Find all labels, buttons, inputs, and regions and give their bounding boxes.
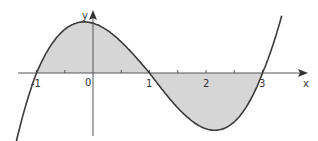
x-tick-label-neg1: -1 xyxy=(31,78,41,89)
origin-label: 0 xyxy=(85,77,91,88)
y-axis-label: y xyxy=(82,10,88,21)
x-tick-label-2: 2 xyxy=(203,78,209,89)
shaded-area xyxy=(37,22,263,130)
x-axis-label: x xyxy=(303,78,309,89)
graph-canvas: y x 0 -1 1 2 3 xyxy=(0,0,318,141)
x-tick-label-1: 1 xyxy=(146,78,152,89)
graph-figure: y x 0 -1 1 2 3 xyxy=(0,0,318,141)
x-tick-label-3: 3 xyxy=(259,78,265,89)
